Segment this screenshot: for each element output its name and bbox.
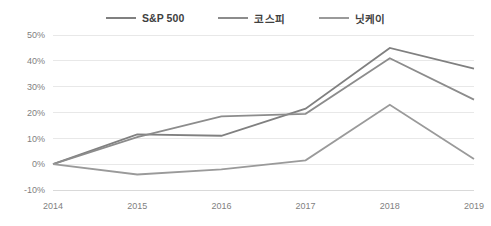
chart-container: S&P 500 코스피 닛케이 50%40%30%20%10%0%-10% 20… (0, 0, 491, 226)
y-axis-tick-label: 10% (27, 134, 45, 144)
x-axis-tick-label: 2015 (127, 201, 147, 211)
y-axis-tick-label: 30% (27, 82, 45, 92)
y-axis-tick-labels: 50%40%30%20%10%0%-10% (24, 30, 45, 195)
chart-plot-area: 50%40%30%20%10%0%-10% 201420152016201720… (0, 0, 491, 226)
x-axis-tick-label: 2014 (43, 201, 63, 211)
y-axis-tick-label: 0% (32, 159, 45, 169)
y-axis-tick-label: -10% (24, 185, 45, 195)
x-axis-tick-labels: 201420152016201720182019 (43, 201, 484, 211)
series-line-sp500 (53, 48, 474, 164)
gridlines-group (53, 35, 474, 190)
y-axis-tick-label: 40% (27, 56, 45, 66)
series-lines-group (53, 48, 474, 175)
series-line- (53, 58, 474, 164)
x-axis-tick-label: 2016 (211, 201, 231, 211)
y-axis-tick-label: 50% (27, 30, 45, 40)
x-axis-tick-label: 2018 (380, 201, 400, 211)
x-axis-tick-label: 2017 (296, 201, 316, 211)
x-axis-tick-label: 2019 (464, 201, 484, 211)
y-axis-tick-label: 20% (27, 108, 45, 118)
